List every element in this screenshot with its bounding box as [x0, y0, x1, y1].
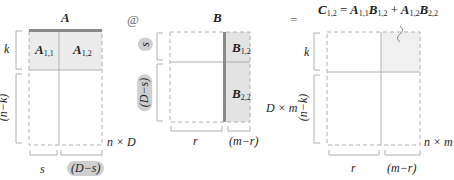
- matrix-c-shapes: [314, 26, 420, 155]
- block-b22-label: B: [232, 86, 241, 101]
- c-col-label-r: r: [351, 161, 356, 176]
- eq-t2b: B: [419, 2, 428, 17]
- eq-lhs: C: [318, 2, 327, 17]
- eq-t1a: A: [350, 2, 359, 17]
- c-dims: n × m: [424, 135, 453, 150]
- eq-t1b-sub: 1,2: [377, 9, 387, 18]
- block-a12-sub: 1,2: [82, 49, 92, 58]
- block-a12: A1,2: [73, 42, 92, 58]
- block-b12: B1,2: [232, 40, 251, 56]
- block-a11-sub: 1,1: [44, 49, 54, 58]
- c-col-label-mr: (m−r): [387, 161, 416, 176]
- a-row-label-nk: (n−k): [0, 94, 11, 121]
- a-dims: n × D: [107, 135, 136, 150]
- eq-t2b-sub: 2,2: [428, 9, 438, 18]
- b-row-label-ds: (D−s): [137, 74, 152, 111]
- c-equation: C1,2 = A1,1B1,2 + A1,2B2,2: [318, 2, 438, 18]
- block-b12-label: B: [232, 40, 241, 55]
- b-col-label-mr: (m−r): [229, 134, 258, 149]
- a-row-label-k: k: [4, 42, 9, 57]
- block-b22: B2,2: [232, 86, 251, 102]
- block-a11: A1,1: [35, 42, 54, 58]
- eq-sign: =: [340, 2, 347, 17]
- a-col-label-s: s: [40, 162, 45, 177]
- matrix-b-title: B: [213, 10, 222, 26]
- block-b22-sub: 2,2: [241, 93, 251, 102]
- b-col-label-r: r: [193, 134, 198, 149]
- block-a11-label: A: [35, 42, 44, 57]
- block-a12-label: A: [73, 42, 82, 57]
- matmul-operator: @: [127, 12, 139, 28]
- b-dims: D × m: [266, 101, 297, 116]
- eq-lhs-sub: 1,2: [327, 9, 337, 18]
- matrix-a-title: A: [61, 10, 70, 26]
- diagram-canvas: [0, 0, 454, 180]
- c-row-label-nk: (n−k): [296, 94, 311, 121]
- block-b12-sub: 1,2: [241, 47, 251, 56]
- equals-operator: =: [290, 12, 297, 28]
- c-row-label-k: k: [304, 45, 309, 60]
- eq-t2a-sub: 1,2: [409, 9, 419, 18]
- a-col-label-ds: (D−s): [67, 161, 104, 176]
- b-row-label-s: s: [138, 38, 153, 51]
- eq-plus: +: [391, 2, 398, 17]
- eq-t1a-sub: 1,1: [359, 9, 369, 18]
